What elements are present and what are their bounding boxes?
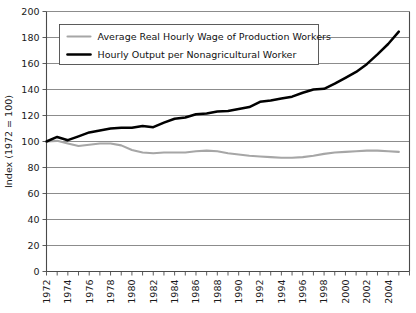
x-tick-label-1980: 1980 (126, 280, 137, 304)
y-tick-label-160: 160 (21, 58, 39, 69)
x-tick-label-1988: 1988 (212, 280, 223, 304)
x-tick-label-2002: 2002 (361, 280, 372, 304)
series-line-wage (47, 141, 399, 158)
y-tick-label-100: 100 (21, 136, 39, 147)
x-tick-label-1986: 1986 (190, 280, 201, 304)
line-chart: 0204060801001201401601802001972197419761… (0, 0, 416, 313)
legend-label-1: Hourly Output per Nonagricultural Worker (98, 49, 297, 60)
x-tick-label-1982: 1982 (148, 280, 159, 304)
x-tick-label-2004: 2004 (383, 280, 394, 304)
y-tick-label-120: 120 (21, 110, 39, 121)
x-tick-label-1996: 1996 (297, 280, 308, 304)
x-tick-label-1976: 1976 (84, 280, 95, 304)
x-tick-label-1998: 1998 (318, 280, 329, 304)
x-tick-label-1974: 1974 (62, 280, 73, 304)
y-tick-label-140: 140 (21, 84, 39, 95)
legend-label-0: Average Real Hourly Wage of Production W… (98, 31, 331, 42)
y-tick-label-180: 180 (21, 32, 39, 43)
y-tick-label-0: 0 (33, 266, 39, 277)
y-tick-label-200: 200 (21, 6, 39, 17)
y-tick-label-40: 40 (27, 214, 39, 225)
x-tick-label-1984: 1984 (169, 280, 180, 304)
x-tick-label-1972: 1972 (41, 280, 52, 304)
y-tick-label-80: 80 (27, 162, 39, 173)
x-tick-label-2000: 2000 (340, 280, 351, 304)
y-tick-label-20: 20 (27, 240, 39, 251)
x-tick-label-1978: 1978 (105, 280, 116, 304)
x-tick-label-1994: 1994 (276, 280, 287, 304)
chart-container: 0204060801001201401601802001972197419761… (0, 0, 416, 313)
x-tick-label-1992: 1992 (254, 280, 265, 304)
y-tick-label-60: 60 (27, 188, 39, 199)
y-axis-title: Index (1972 = 100) (3, 95, 14, 188)
x-tick-label-1990: 1990 (233, 280, 244, 304)
